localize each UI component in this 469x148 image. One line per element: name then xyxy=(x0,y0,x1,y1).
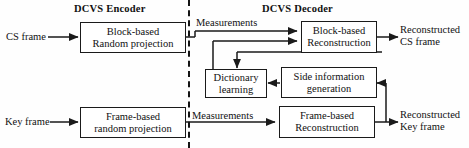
reconstructed-cs-line1: Reconstructed xyxy=(400,24,460,36)
side-information-line1: Side information xyxy=(294,71,365,83)
measurements-bottom-label: Measurements xyxy=(192,110,253,122)
side-information-line2: generation xyxy=(307,83,351,95)
dictionary-learning-line1: Dictionary xyxy=(214,72,259,84)
reconstructed-cs-frame-label: Reconstructed CS frame xyxy=(400,24,460,49)
encoder-title: DCVS Encoder xyxy=(74,3,146,14)
frame-random-projection-box[interactable]: Frame-based random projection xyxy=(80,107,186,138)
block-random-projection-line2: Random projection xyxy=(93,38,174,50)
frame-random-projection-line1: Frame-based xyxy=(106,111,160,123)
measurements-top-label: Measurements xyxy=(196,17,257,29)
decoder-title: DCVS Decoder xyxy=(262,3,333,14)
encoder-decoder-divider xyxy=(188,0,190,148)
reconstructed-key-frame-label: Reconstructed Key frame xyxy=(400,109,460,134)
reconstructed-key-line1: Reconstructed xyxy=(400,109,460,121)
dictionary-learning-box[interactable]: Dictionary learning xyxy=(205,69,267,98)
block-random-projection-box[interactable]: Block-based Random projection xyxy=(80,22,186,53)
cs-frame-input-label: CS frame xyxy=(6,31,46,43)
block-random-projection-line1: Block-based xyxy=(107,26,160,38)
key-frame-input-label: Key frame xyxy=(5,116,50,128)
figure-canvas: DCVS Encoder DCVS Decoder Block-based Ra… xyxy=(0,0,469,148)
block-reconstruction-line2: Reconstruction xyxy=(307,37,371,49)
block-reconstruction-line1: Block-based xyxy=(313,25,366,37)
block-reconstruction-box[interactable]: Block-based Reconstruction xyxy=(301,21,377,53)
frame-random-projection-line2: random projection xyxy=(94,123,171,135)
dictionary-learning-line2: learning xyxy=(219,84,253,96)
reconstructed-cs-line2: CS frame xyxy=(400,36,460,48)
reconstructed-key-line2: Key frame xyxy=(400,121,460,133)
frame-reconstruction-line2: Reconstruction xyxy=(295,122,359,134)
frame-reconstruction-line1: Frame-based xyxy=(300,110,354,122)
side-information-box[interactable]: Side information generation xyxy=(281,67,377,98)
frame-reconstruction-box[interactable]: Frame-based Reconstruction xyxy=(279,106,375,138)
